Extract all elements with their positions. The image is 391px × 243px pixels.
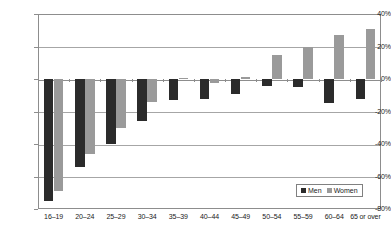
bar-men xyxy=(356,79,366,99)
legend-swatch-men-icon xyxy=(301,188,306,193)
bar-women xyxy=(147,79,157,102)
legend-label: Women xyxy=(334,187,358,195)
x-axis-label: 20–24 xyxy=(69,212,100,221)
legend-swatch-women-icon xyxy=(327,188,332,193)
bar-men xyxy=(137,79,147,121)
bar-group xyxy=(38,14,69,209)
x-tick-mark xyxy=(381,79,382,82)
bar-group xyxy=(225,14,256,209)
bar-men xyxy=(75,79,85,167)
x-axis-label: 40–44 xyxy=(194,212,225,221)
bar-group xyxy=(194,14,225,209)
bar-men xyxy=(262,79,272,86)
x-axis-label: 25–29 xyxy=(100,212,131,221)
bar-group xyxy=(163,14,194,209)
bar-men xyxy=(324,79,334,103)
x-axis-label: 45–49 xyxy=(225,212,256,221)
legend-entry-men: Men xyxy=(301,187,322,195)
bar-women xyxy=(85,79,95,154)
bar-group xyxy=(69,14,100,209)
bar-group xyxy=(319,14,350,209)
x-axis-labels: 16–1920–2425–2930–3435–3940–4445–4950–54… xyxy=(38,212,381,240)
x-axis-label: 60–64 xyxy=(319,212,350,221)
x-axis-label: 55–59 xyxy=(287,212,318,221)
legend-entry-women: Women xyxy=(327,187,358,195)
legend-label: Men xyxy=(308,187,322,195)
bar-group xyxy=(132,14,163,209)
bar-women xyxy=(179,78,189,79)
bar-women xyxy=(272,55,282,79)
bar-women xyxy=(303,47,313,80)
x-axis-label: 65 or over xyxy=(350,212,381,221)
y-tick-mark xyxy=(34,209,38,210)
bar-women xyxy=(54,79,64,191)
bar-men xyxy=(106,79,116,144)
bar-group xyxy=(350,14,381,209)
bars-layer xyxy=(38,14,381,209)
x-axis-label: 16–19 xyxy=(38,212,69,221)
bar-women xyxy=(334,35,344,79)
x-axis-label: 35–39 xyxy=(163,212,194,221)
bar-group xyxy=(256,14,287,209)
bar-men xyxy=(44,79,54,201)
bar-men xyxy=(200,79,210,99)
chart-screenshot: 40%20%0%-20%-40%-60%-80% 16–1920–2425–29… xyxy=(0,0,391,243)
bar-group xyxy=(287,14,318,209)
bar-women xyxy=(241,77,251,79)
bar-women xyxy=(116,79,126,128)
bar-group xyxy=(100,14,131,209)
x-axis-label: 50–54 xyxy=(256,212,287,221)
chart-legend: MenWomen xyxy=(296,184,363,197)
bar-men xyxy=(231,79,241,94)
bar-men xyxy=(293,79,303,87)
bar-women xyxy=(210,79,220,83)
bar-men xyxy=(169,79,179,100)
bar-women xyxy=(366,29,376,79)
x-axis-label: 30–34 xyxy=(132,212,163,221)
